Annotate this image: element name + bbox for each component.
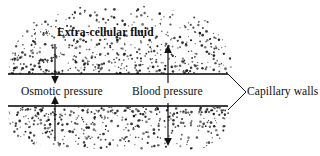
capillary-fluid-exchange-diagram: Extra-cellular fluid Osmotic pressure Bl… [0, 0, 320, 156]
diagram-canvas [0, 0, 320, 156]
label-blood-pressure: Blood pressure [132, 86, 203, 98]
label-capillary-walls: Capillary walls [247, 86, 318, 98]
osmotic-pressure-arrow-upper [51, 44, 59, 84]
extra-cellular-fluid-stipple-lower [8, 106, 230, 152]
label-osmotic-pressure: Osmotic pressure [21, 86, 103, 98]
blood-pressure-arrow-lower [164, 103, 172, 146]
capillary-walls-leader-line-upper [228, 74, 246, 92]
osmotic-pressure-arrow-lower [51, 96, 59, 141]
label-extra-cellular-fluid: Extra-cellular fluid [57, 27, 154, 39]
capillary-walls-leader-line-lower [228, 92, 246, 110]
blood-pressure-arrow-upper [164, 45, 172, 83]
extra-cellular-fluid-stipple-upper [7, 5, 231, 75]
